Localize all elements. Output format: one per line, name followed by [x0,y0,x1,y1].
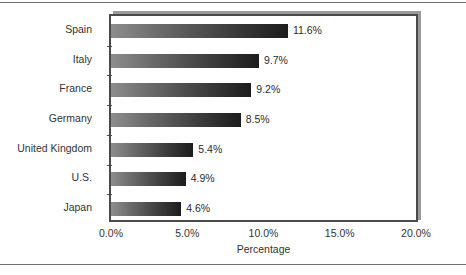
bar-row: 8.5% [111,113,416,127]
bar-series: 11.6%9.7%9.2%8.5%5.4%4.9%4.6% [111,16,416,220]
bar-row: 5.4% [111,143,416,157]
category-label: United Kingdom [17,141,92,155]
plot-area: 11.6%9.7%9.2%8.5%5.4%4.9%4.6% [109,14,418,222]
category-axis-labels: SpainItalyFranceGermanyUnited KingdomU.S… [0,14,100,222]
bar [111,143,193,157]
category-axis-tick [107,135,112,136]
bar [111,24,288,38]
category-label: Spain [65,22,92,36]
bar [111,54,259,68]
category-axis-tick [107,165,112,166]
bar-row: 4.9% [111,172,416,186]
category-axis-tick [107,75,112,76]
value-axis-tick-label: 0.0% [99,226,123,240]
bar-value-label: 4.6% [186,201,210,215]
category-label: U.S. [72,170,92,184]
bar [111,202,181,216]
bar-row: 11.6% [111,24,416,38]
bar-chart-figure: SpainItalyFranceGermanyUnited KingdomU.S… [0,0,466,275]
value-axis-tick-labels: 0.0%5.0%10.0%15.0%20.0% [109,226,418,240]
category-axis-tick [107,194,112,195]
category-label: France [59,81,92,95]
value-axis-tick-label: 10.0% [249,226,279,240]
bar-value-label: 4.9% [191,171,215,185]
category-axis-tick [107,105,112,106]
value-axis-tick-label: 5.0% [175,226,199,240]
bottom-divider-rule [0,264,466,265]
bar-value-label: 5.4% [198,142,222,156]
category-axis-tick [107,46,112,47]
bar [111,172,186,186]
category-label: Japan [63,200,92,214]
bar-value-label: 9.2% [256,82,280,96]
bar-value-label: 9.7% [264,53,288,67]
bar [111,113,241,127]
value-axis-tick-label: 15.0% [325,226,355,240]
category-label: Germany [49,111,92,125]
bar-value-label: 8.5% [246,112,270,126]
bar [111,83,251,97]
bar-row: 9.7% [111,54,416,68]
bar-row: 9.2% [111,83,416,97]
x-axis-title: Percentage [109,243,418,255]
bar-row: 4.6% [111,202,416,216]
top-divider-rule [0,2,466,3]
value-axis-tick-label: 20.0% [401,226,431,240]
category-label: Italy [73,52,92,66]
bar-value-label: 11.6% [293,23,322,37]
